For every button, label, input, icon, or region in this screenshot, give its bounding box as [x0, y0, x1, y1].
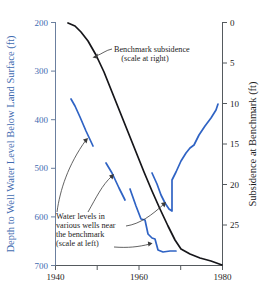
series-well-level-a [71, 99, 93, 146]
bottom-ticklabel-1940: 1940 [47, 272, 66, 282]
wells-arrowhead-d [161, 202, 166, 208]
wells-annotation-line1: Water levels in [56, 212, 105, 221]
left-ticklabel-400: 400 [35, 115, 49, 125]
left-ticklabel-600: 600 [35, 212, 49, 222]
bottom-axis-ticks [56, 266, 223, 271]
series-well-level-c [130, 189, 176, 252]
right-ticklabel-15: 15 [230, 139, 240, 149]
wells-arrowhead-c [148, 242, 153, 247]
wells-annotation-line3: the benchmark [56, 230, 105, 239]
left-ticklabel-300: 300 [35, 66, 49, 76]
wells-leader-to-b [88, 176, 112, 212]
benchmark-annotation-line1: Benchmark subsidence [114, 45, 190, 54]
figure-container: 200 300 400 500 600 700 0 5 10 15 20 25 [0, 0, 265, 293]
wells-annotation-line2: various wells near [56, 221, 116, 230]
bottom-axis-ticklabels: 1940 1960 1980 [47, 272, 233, 282]
left-axis-ticklabels: 200 300 400 500 600 700 [35, 18, 49, 271]
right-ticklabel-20: 20 [230, 180, 240, 190]
wells-annotation-line4: (scale at left) [56, 239, 99, 248]
left-ticklabel-700: 700 [35, 261, 49, 271]
series-well-level-d [152, 104, 218, 211]
right-axis-ticks [223, 23, 228, 226]
benchmark-annotation-line2: (scale at right) [121, 54, 169, 63]
right-axis-title: Subsidence at Benchmark (ft) [247, 81, 259, 207]
wells-leader-to-a [57, 140, 86, 212]
right-ticklabel-0: 0 [230, 18, 235, 28]
annotation-well-levels: Water levels in various wells near the b… [56, 138, 166, 248]
wells-leader-to-c [114, 244, 150, 247]
right-ticklabel-5: 5 [230, 58, 235, 68]
left-ticklabel-500: 500 [35, 163, 49, 173]
right-ticklabel-10: 10 [230, 99, 240, 109]
benchmark-leader-line [96, 49, 112, 56]
annotation-benchmark-subsidence: Benchmark subsidence (scale at right) [93, 45, 191, 63]
left-axis-ticks [51, 23, 56, 266]
right-axis-ticklabels: 0 5 10 15 20 25 [230, 18, 240, 231]
left-axis-title: Depth to Well Water Level Below Land Sur… [5, 35, 17, 253]
left-ticklabel-200: 200 [35, 18, 49, 28]
well-subsidence-chart: 200 300 400 500 600 700 0 5 10 15 20 25 [0, 0, 265, 293]
right-ticklabel-25: 25 [230, 220, 240, 230]
bottom-ticklabel-1960: 1960 [130, 272, 149, 282]
series-well-level-b [106, 163, 125, 200]
bottom-ticklabel-1980: 1980 [214, 272, 233, 282]
